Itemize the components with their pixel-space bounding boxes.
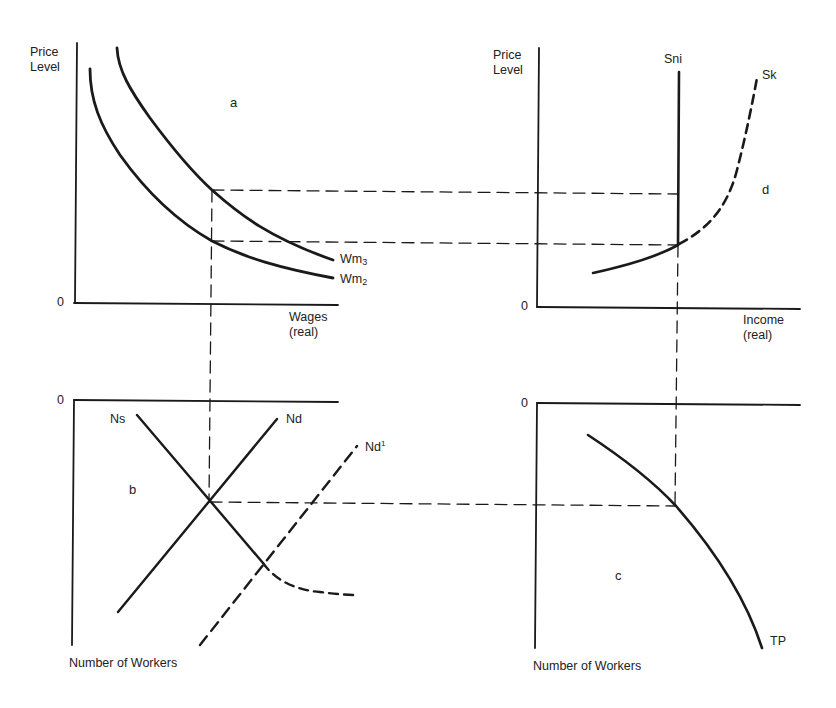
price-label: Price: [493, 48, 523, 63]
panel-b-origin: 0: [57, 393, 64, 408]
panel-a-y-label: Price Level: [30, 45, 60, 75]
panel-d-y-axis: [537, 48, 539, 307]
connector-upper-price: [212, 190, 678, 194]
panel-b-letter: b: [129, 482, 136, 497]
level-label: Level: [30, 60, 60, 75]
label-ns: Ns: [110, 412, 125, 427]
curve-nd: [118, 419, 277, 612]
four-quadrant-diagram: [0, 0, 836, 708]
label-sni: Sni: [664, 52, 682, 67]
curve-sni-lower: [593, 245, 678, 273]
panel-d-x-axis: [537, 307, 800, 309]
panel-a-x-label: Wages (real): [289, 310, 327, 340]
panel-c-x-label: Number of Workers: [533, 659, 641, 674]
connector-income-vertical: [675, 245, 678, 506]
panel-d-letter: d: [762, 182, 769, 197]
panel-c-letter: c: [615, 568, 622, 583]
curve-sk: [679, 78, 757, 244]
connector-employment-horizontal: [210, 502, 675, 506]
label-tp: TP: [770, 634, 786, 649]
curve-ns-dashed-extension: [263, 563, 357, 595]
income-label: Income: [743, 313, 784, 328]
label-wm2: Wm2: [340, 272, 367, 290]
panel-a-y-axis: [75, 43, 77, 303]
panel-b-y-axis: [72, 400, 74, 645]
panel-c-origin: 0: [521, 396, 528, 411]
panel-c-y-axis: [535, 403, 537, 648]
curve-sni: [678, 72, 679, 245]
wages-label: Wages: [289, 310, 327, 325]
level-label: Level: [493, 63, 523, 78]
curve-tp: [588, 435, 762, 648]
real-label: (real): [289, 325, 327, 340]
price-label: Price: [30, 45, 60, 60]
panel-b-x-label: Number of Workers: [69, 656, 177, 671]
curve-nd1: [200, 446, 357, 645]
connector-wage-vertical: [209, 190, 212, 502]
panel-c-x-axis: [537, 403, 800, 405]
curve-ns: [137, 415, 263, 563]
label-nd: Nd: [286, 412, 302, 427]
label-sk: Sk: [762, 68, 777, 83]
curve-wm3: [117, 48, 333, 260]
panel-a-origin: 0: [57, 295, 64, 310]
panel-d-origin: 0: [521, 299, 528, 314]
real-label: (real): [743, 328, 784, 343]
panel-d-x-label: Income (real): [743, 313, 784, 343]
connector-lower-price: [212, 241, 678, 245]
panel-b-x-axis: [74, 400, 338, 402]
panel-a-x-axis: [74, 303, 338, 305]
label-nd1: Nd1: [365, 436, 385, 455]
panel-d-y-label: Price Level: [493, 48, 523, 78]
label-wm3: Wm3: [340, 252, 367, 270]
panel-a-letter: a: [230, 95, 237, 110]
